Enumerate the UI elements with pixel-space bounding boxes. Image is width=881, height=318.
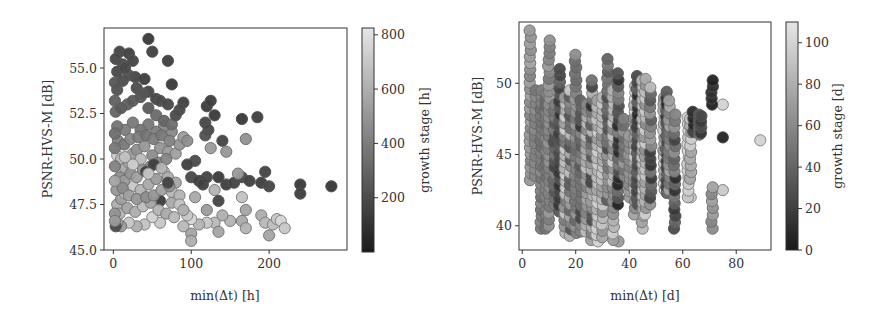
data-point: [137, 88, 148, 99]
colorbar-tick-label: 80: [805, 77, 821, 92]
y-tick-label: 45: [496, 147, 512, 162]
data-point: [232, 168, 243, 179]
data-point: [109, 215, 120, 226]
data-point: [645, 82, 656, 93]
data-point: [156, 163, 167, 174]
data-point: [119, 152, 130, 163]
colorbar-tick-label: 400: [381, 136, 405, 151]
y-tick-label: 52.5: [69, 106, 97, 121]
data-point: [182, 135, 193, 146]
data-point: [186, 235, 197, 246]
colorbar-tick-label: 100: [805, 35, 829, 50]
y-tick-label: 50.0: [69, 152, 97, 167]
y-tick-label: 45.0: [69, 243, 97, 258]
data-point: [127, 55, 138, 66]
data-point: [169, 212, 180, 223]
left-scatter-plot: 010020045.047.550.052.555.0 min(Δt) [h] …: [40, 27, 432, 303]
data-point: [109, 95, 120, 106]
data-point: [544, 35, 555, 46]
data-point: [162, 177, 173, 188]
data-point: [109, 128, 120, 139]
data-point: [143, 168, 154, 179]
y-tick-label: 40: [496, 218, 512, 233]
x-tick-label: 80: [728, 256, 744, 271]
data-point: [244, 175, 255, 186]
colorbar-tick-label: 40: [805, 160, 821, 175]
data-point: [663, 95, 674, 106]
data-point: [240, 133, 251, 144]
data-point: [570, 49, 581, 60]
right-y-axis-label: PSNR-HVS-M [dB]: [470, 77, 485, 195]
y-tick-label: 47.5: [69, 197, 97, 212]
data-point: [209, 110, 220, 121]
data-point: [109, 77, 120, 88]
colorbar-tick-label: 200: [381, 190, 405, 205]
x-tick-label: 0: [518, 256, 526, 271]
data-point: [717, 185, 728, 196]
data-point: [213, 226, 224, 237]
data-point: [205, 95, 216, 106]
data-point: [707, 75, 718, 86]
data-point: [260, 166, 271, 177]
data-point: [162, 99, 173, 110]
data-point: [201, 172, 212, 183]
data-point: [162, 55, 173, 66]
x-tick-label: 60: [675, 256, 691, 271]
right-scatter-plot: 020406080404550 min(Δt) [d] PSNR-HVS-M […: [470, 22, 845, 303]
right-colorbar-label: growth stage [d]: [830, 83, 845, 188]
right-data-points: [524, 25, 766, 247]
left-colorbar: [362, 28, 374, 252]
data-point: [717, 132, 728, 143]
data-point: [264, 230, 275, 241]
x-tick-label: 40: [621, 256, 637, 271]
data-point: [166, 79, 177, 90]
data-point: [295, 188, 306, 199]
data-point: [240, 223, 251, 234]
data-point: [109, 161, 120, 172]
left-data-points: [109, 33, 337, 246]
left-axis-ticks: 010020045.047.550.052.555.0: [69, 61, 281, 271]
data-point: [524, 25, 535, 36]
data-point: [205, 143, 216, 154]
data-point: [221, 146, 232, 157]
data-point: [213, 195, 224, 206]
data-point: [201, 204, 212, 215]
x-tick-label: 200: [257, 256, 281, 271]
data-point: [209, 184, 220, 195]
data-point: [109, 143, 120, 154]
data-point: [618, 113, 629, 124]
left-x-axis-label: min(Δt) [h]: [190, 288, 259, 303]
data-point: [200, 130, 211, 141]
data-point: [602, 53, 613, 64]
data-point: [147, 46, 158, 57]
data-point: [696, 110, 707, 121]
colorbar-tick-label: 60: [805, 118, 821, 133]
right-colorbar: [786, 22, 798, 250]
data-point: [236, 113, 247, 124]
data-point: [109, 175, 120, 186]
data-point: [717, 99, 728, 110]
data-point: [586, 75, 597, 86]
colorbar-tick-label: 600: [381, 82, 405, 97]
y-tick-label: 50: [496, 76, 512, 91]
data-point: [217, 135, 228, 146]
data-point: [178, 204, 189, 215]
data-point: [182, 159, 193, 170]
right-colorbar-ticks: 020406080100: [798, 35, 829, 257]
figure: 010020045.047.550.052.555.0 min(Δt) [h] …: [0, 0, 881, 318]
data-point: [755, 135, 766, 146]
data-point: [170, 110, 181, 121]
data-point: [264, 181, 275, 192]
x-tick-label: 0: [109, 256, 117, 271]
data-point: [236, 192, 247, 203]
right-x-axis-label: min(Δt) [d]: [610, 288, 679, 303]
data-point: [190, 192, 201, 203]
data-point: [252, 112, 263, 123]
x-tick-label: 20: [568, 256, 584, 271]
data-point: [139, 73, 150, 84]
x-tick-label: 100: [179, 256, 203, 271]
data-point: [164, 135, 175, 146]
left-y-axis-label: PSNR-HVS-M [dB]: [40, 80, 55, 198]
colorbar-tick-label: 800: [381, 27, 405, 42]
data-point: [554, 63, 565, 74]
